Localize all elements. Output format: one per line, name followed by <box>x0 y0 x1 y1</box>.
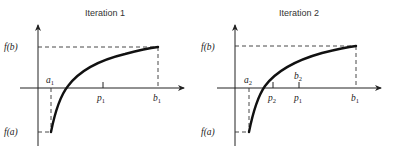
b1-label: b1 <box>351 93 359 104</box>
p1-label: p1 <box>96 93 105 104</box>
false-position-diagram: Iteration 1 f(b) f(a) a1 p1 b1 Iteration… <box>0 0 399 153</box>
p1-label: p1 <box>293 93 302 104</box>
fa-label: f(a) <box>201 127 215 138</box>
function-curve <box>51 47 158 132</box>
panel-title: Iteration 2 <box>279 8 319 18</box>
panel-iteration-1: Iteration 1 f(b) f(a) a1 p1 b1 <box>4 8 184 146</box>
a1-label: a1 <box>46 75 54 86</box>
fb-label: f(b) <box>201 42 215 53</box>
a2-label: a2 <box>244 75 252 86</box>
b2-label: b2 <box>294 71 302 82</box>
fb-label: f(b) <box>4 42 18 53</box>
fa-label: f(a) <box>4 127 18 138</box>
b1-label: b1 <box>153 93 161 104</box>
function-curve <box>249 46 356 132</box>
p2-label: p2 <box>267 93 276 104</box>
panel-title: Iteration 1 <box>85 8 125 18</box>
panel-iteration-2: Iteration 2 f(b) f(a) a2 p2 b2 p1 b1 <box>201 8 381 146</box>
